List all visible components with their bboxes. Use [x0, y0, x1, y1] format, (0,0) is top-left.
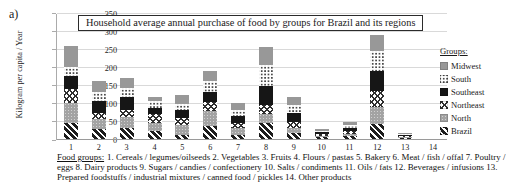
solid-black-swatch-icon	[440, 88, 448, 96]
stacked-bar-7	[231, 103, 245, 139]
x-axis-line	[57, 139, 447, 140]
y-tick-label-200: 200	[87, 64, 117, 73]
bar-segment-midwest-7	[231, 103, 245, 110]
x-tick-label-7: 7	[228, 143, 248, 152]
legend-item-midwest: Midwest	[440, 59, 484, 72]
bar-segment-southeast-3	[120, 97, 134, 110]
y-tick-mark-100	[52, 103, 56, 104]
legend-item-north: North	[440, 111, 484, 124]
solid-gray-swatch-icon	[440, 62, 448, 70]
bar-segment-southeast-6	[203, 92, 217, 102]
chart-title: Household average annual purchase of foo…	[78, 15, 423, 31]
legend-label-northeast: Northeast	[451, 100, 484, 110]
bar-segment-brazil-12	[370, 124, 384, 139]
legend-label-brazil: Brazil	[451, 126, 472, 136]
stacked-bar-10	[315, 129, 329, 139]
bar-segment-south-2	[92, 92, 106, 101]
diamond-crosshatch-swatch-icon	[440, 101, 448, 109]
y-tick-mark-350	[52, 13, 56, 14]
stacked-bar-2	[92, 81, 106, 139]
x-tick-label-13: 13	[395, 143, 415, 152]
bar-segment-midwest-5	[175, 95, 189, 104]
bar-segment-south-1	[64, 67, 78, 76]
bar-segment-northeast-1	[64, 89, 78, 103]
y-tick-mark-200	[52, 67, 56, 68]
bar-segment-brazil-4	[148, 131, 162, 139]
footnote: Food groups:1. Cereals / legumes/oilseed…	[57, 152, 509, 183]
stacked-bar-8	[259, 47, 273, 139]
bar-segment-northeast-6	[203, 102, 217, 111]
bar-segment-southeast-9	[287, 113, 301, 123]
bar-segment-north-12	[370, 107, 384, 124]
bar-segment-north-4	[148, 123, 162, 131]
stacked-bar-12	[370, 35, 384, 139]
y-tick-mark-50	[52, 121, 56, 122]
x-tick-label-1: 1	[61, 143, 81, 152]
legend-heading: Groups:	[440, 46, 484, 56]
bar-segment-northeast-4	[148, 114, 162, 123]
bar-segment-midwest-9	[287, 97, 301, 105]
x-tick-label-3: 3	[117, 143, 137, 152]
bar-segment-northeast-5	[175, 118, 189, 125]
bar-segment-south-9	[287, 105, 301, 113]
legend-item-northeast: Northeast	[440, 98, 484, 111]
bar-segment-north-1	[64, 103, 78, 123]
legend-item-south: South	[440, 72, 484, 85]
y-tick-mark-0	[52, 140, 56, 141]
legend-label-north: North	[451, 113, 471, 123]
x-tick-label-9: 9	[284, 143, 304, 152]
y-tick-mark-250	[52, 49, 56, 50]
bar-segment-north-2	[92, 119, 106, 129]
bar-segment-south-8	[259, 65, 273, 86]
y-tick-label-250: 250	[87, 46, 117, 55]
bar-segment-north-3	[120, 117, 134, 127]
bar-segment-southeast-7	[231, 116, 245, 123]
gray-fine-dots-swatch-icon	[440, 114, 448, 122]
y-axis-title: Kilogram per capita / Year	[15, 28, 24, 122]
bar-segment-south-4	[148, 101, 162, 108]
diagonal-stripes-swatch-icon	[440, 127, 448, 135]
legend-label-midwest: Midwest	[451, 61, 481, 71]
stacked-bar-1	[64, 46, 78, 139]
legend-item-southeast: Southeast	[440, 85, 484, 98]
x-tick-label-12: 12	[367, 143, 387, 152]
bar-segment-brazil-8	[259, 123, 273, 139]
bar-segment-northeast-3	[120, 110, 134, 118]
bar-segment-midwest-12	[370, 35, 384, 50]
bar-segment-midwest-1	[64, 46, 78, 68]
bar-segment-brazil-3	[120, 128, 134, 139]
bar-segment-south-6	[203, 81, 217, 91]
legend-label-southeast: Southeast	[451, 87, 484, 97]
y-tick-mark-300	[52, 31, 56, 32]
stacked-bar-3	[120, 78, 134, 139]
legend: Groups: MidwestSouthSoutheastNortheastNo…	[440, 46, 484, 137]
bar-segment-midwest-6	[203, 71, 217, 81]
legend-label-south: South	[451, 74, 471, 84]
bar-segment-brazil-1	[64, 123, 78, 139]
bar-segment-northeast-8	[259, 105, 273, 114]
bar-segment-brazil-2	[92, 129, 106, 139]
bar-segment-south-3	[120, 88, 134, 97]
stacked-bar-6	[203, 71, 217, 139]
stacked-bar-5	[175, 95, 189, 139]
x-tick-label-11: 11	[340, 143, 360, 152]
bar-segment-south-12	[370, 51, 384, 71]
x-tick-label-10: 10	[312, 143, 332, 152]
bar-segment-brazil-6	[203, 126, 217, 139]
stacked-bar-4	[148, 97, 162, 139]
footnote-text: 1. Cereals / legumes/oilseeds 2. Vegetab…	[57, 152, 505, 182]
x-tick-label-5: 5	[172, 143, 192, 152]
footnote-heading: Food groups:	[57, 152, 104, 162]
bar-segment-southeast-5	[175, 110, 189, 118]
bar-segment-midwest-2	[92, 81, 106, 92]
figure-label: a)	[9, 7, 18, 22]
x-tick-label-8: 8	[256, 143, 276, 152]
bar-segment-midwest-8	[259, 47, 273, 65]
legend-items: MidwestSouthSoutheastNortheastNorthBrazi…	[440, 59, 484, 137]
x-tick-label-14: 14	[423, 143, 443, 152]
bar-segment-north-7	[231, 128, 245, 135]
bar-segment-southeast-2	[92, 101, 106, 113]
bar-segment-southeast-1	[64, 76, 78, 89]
stacked-bar-11	[343, 122, 357, 139]
bar-segment-southeast-12	[370, 71, 384, 91]
